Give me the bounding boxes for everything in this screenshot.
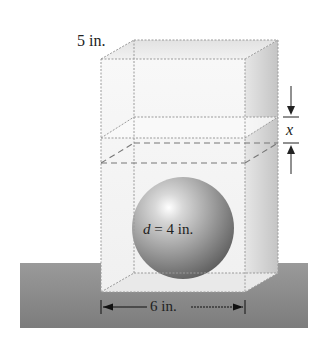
width-label: 6 in. bbox=[150, 299, 177, 314]
box-side-face bbox=[245, 40, 278, 292]
sphere-var: d bbox=[143, 221, 151, 237]
sphere-eq: = 4 in. bbox=[151, 221, 194, 237]
gap-x-label: x bbox=[286, 122, 293, 138]
diagram-canvas bbox=[0, 0, 310, 345]
depth-label: 5 in. bbox=[77, 33, 105, 49]
sphere-label: d = 4 in. bbox=[143, 222, 193, 237]
